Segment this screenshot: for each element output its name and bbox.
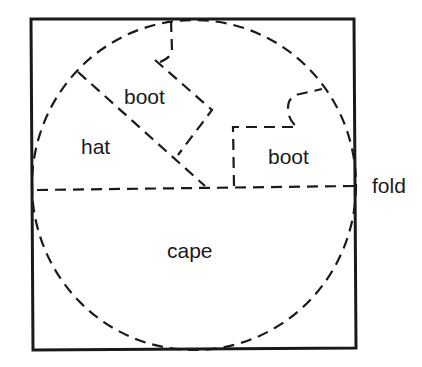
fold-label: fold (372, 174, 406, 197)
boot-2-outline (233, 89, 322, 186)
cutting-pattern-diagram: hat boot boot cape fold (0, 0, 422, 367)
region-label-boot-1: boot (124, 85, 165, 108)
cloth-square-outline (31, 19, 356, 350)
fold-line (37, 186, 355, 190)
region-label-cape: cape (167, 239, 213, 262)
cutting-circle (32, 20, 356, 350)
region-label-boot-2: boot (268, 145, 309, 168)
region-label-hat: hat (81, 135, 110, 158)
